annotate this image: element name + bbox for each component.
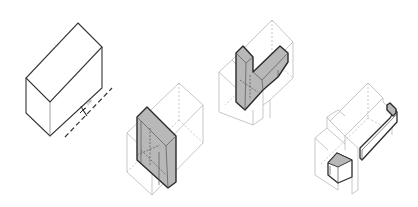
rail-grey-cap [387,103,396,116]
ghost-edge [219,72,236,88]
step-4-rail-and-block [315,83,397,194]
grey-slab [137,107,176,188]
ghost-step [219,60,232,72]
ghost-hidden-edge [179,120,203,143]
step-1-base-volume: UM [26,23,112,137]
rail-element [360,110,397,160]
step-2-vertical-slab [127,83,203,195]
grey-l-mass [236,46,288,110]
step-3-l-shaped-mass [219,20,293,125]
ghost-top [330,83,383,136]
box-top-face [26,23,102,102]
axis-dashed-line [65,88,112,137]
box-outline [26,47,102,136]
ghost-edge [315,138,328,150]
ghost-edge [263,100,270,105]
massing-diagram: UM [0,0,418,207]
annotation-label: UM [85,98,93,106]
ghost-edge [327,128,345,144]
